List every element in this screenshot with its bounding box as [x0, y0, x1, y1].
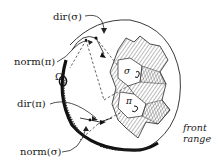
arrowheads: [83, 28, 107, 131]
label-front: front: [183, 122, 207, 133]
label-dir-sigma: dir(σ): [53, 12, 82, 22]
label-omega: Ω3: [55, 72, 67, 84]
face-label-pi: π: [126, 96, 132, 106]
label-norm-sigma: norm(σ): [20, 147, 61, 157]
omega-subscript: 3: [63, 77, 67, 84]
front-range-solid: [110, 36, 170, 138]
vector-lines: [72, 37, 112, 123]
label-norm-pi: norm(π): [14, 57, 55, 67]
label-dir-pi: dir(π): [17, 99, 46, 109]
label-range: range: [183, 133, 211, 144]
face-label-sigma: σ: [124, 66, 130, 76]
